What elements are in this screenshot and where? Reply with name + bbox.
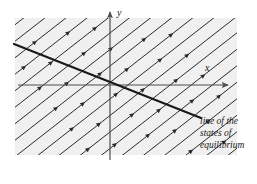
equilibrium-label-line-2: states of [200, 128, 233, 138]
x-axis-label: x [204, 62, 210, 73]
phase-portrait-figure: x y line of the states of equilibrium [0, 0, 257, 184]
phase-portrait-svg: x y line of the states of equilibrium [0, 0, 257, 184]
equilibrium-label-line-3: equilibrium [200, 140, 244, 150]
y-axis-label: y [116, 7, 122, 18]
equilibrium-label-line-1: line of the [200, 116, 238, 126]
equilibrium-line-label: line of the states of equilibrium [200, 116, 244, 150]
